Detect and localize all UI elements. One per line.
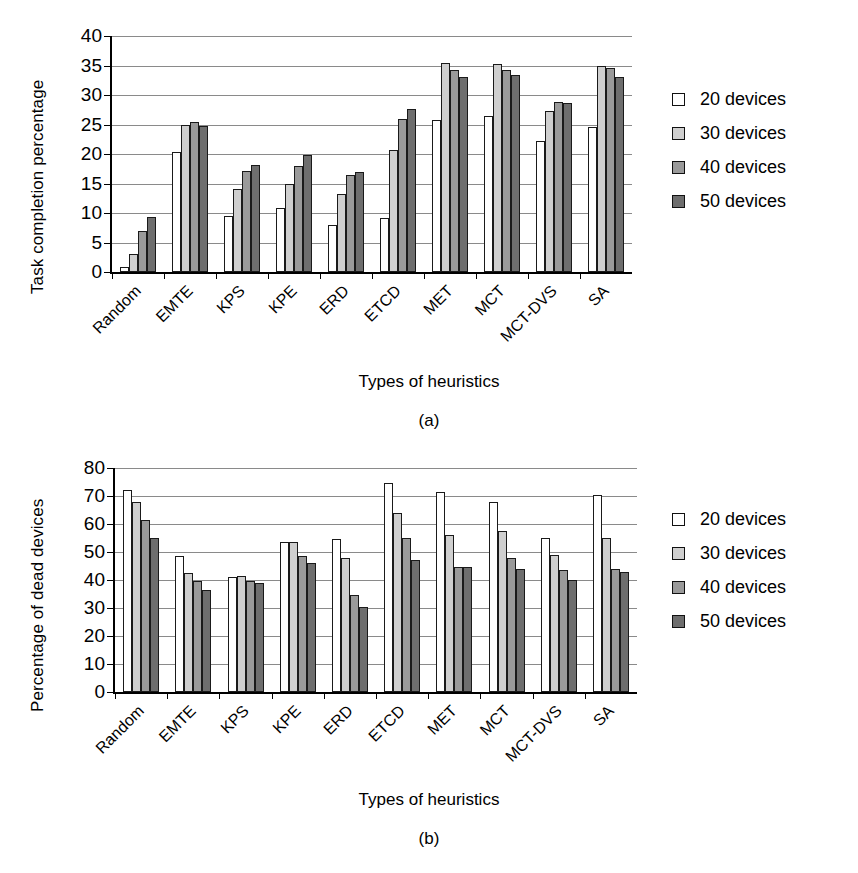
y-tick-label: 60 (65, 514, 105, 533)
y-tick-label: 25 (62, 115, 102, 134)
bar (502, 70, 511, 272)
bar (150, 538, 159, 692)
bar (255, 583, 264, 692)
bar (233, 189, 242, 272)
bar (450, 70, 459, 272)
bar (237, 576, 246, 692)
bar (123, 490, 132, 692)
bar (432, 120, 441, 272)
bar (484, 116, 493, 272)
bar (516, 569, 525, 692)
bar-group-emte (164, 36, 216, 272)
x-tick-label: MET (420, 282, 457, 319)
legend-item: 40 devices (672, 570, 786, 604)
bar (294, 166, 303, 272)
legend-item: 40 devices (672, 150, 786, 184)
bar-group-met (424, 36, 476, 272)
legend-item: 30 devices (672, 116, 786, 150)
bar (545, 111, 554, 272)
y-axis-tick (104, 184, 112, 185)
white-square-icon (672, 93, 685, 106)
bar (507, 558, 516, 692)
bar (242, 171, 251, 272)
x-tick-label: MET (424, 702, 461, 739)
bar (328, 225, 337, 272)
y-axis-tick (107, 552, 115, 553)
y-axis-tick (107, 636, 115, 637)
panel-b-x-tick-labels: RandomEMTEKPSKPEERDETCDMETMCTMCT-DVSSA (115, 692, 637, 782)
bar (350, 595, 359, 692)
x-tick-label: EMTE (156, 702, 200, 746)
bar (289, 542, 298, 692)
y-tick-label: 15 (62, 174, 102, 193)
legend-item: 50 devices (672, 184, 786, 218)
y-tick-label: 0 (62, 262, 102, 281)
dark-gray-square-icon (672, 195, 685, 208)
bar (559, 570, 568, 692)
y-axis-tick (107, 664, 115, 665)
bar-group-random (112, 36, 164, 272)
bar (120, 267, 129, 272)
bar (341, 558, 350, 692)
x-tick-label: EMTE (153, 282, 197, 326)
bar-group-kpe (268, 36, 320, 272)
y-axis-tick (104, 213, 112, 214)
panel-a-caption: (a) (0, 411, 858, 431)
bar (181, 125, 190, 273)
bar (498, 531, 507, 692)
panel-a-bar-groups (112, 36, 632, 272)
panel-b-caption: (b) (0, 829, 858, 849)
bar-group-mct (476, 36, 528, 272)
bar (398, 119, 407, 272)
legend-label: 20 devices (700, 89, 786, 110)
panel-b-plot-area: RandomEMTEKPSKPEERDETCDMETMCTMCT-DVSSA (113, 468, 637, 694)
panel-a-x-tick-labels: RandomEMTEKPSKPEERDETCDMETMCTMCT-DVSSA (112, 272, 632, 362)
bar-group-erd (320, 36, 372, 272)
x-tick-label: ETCD (365, 702, 409, 746)
bar (147, 217, 156, 272)
y-axis-tick (107, 692, 115, 693)
bar (568, 580, 577, 692)
bar (615, 77, 624, 272)
bar (554, 102, 563, 272)
bar-group-mct (480, 468, 532, 692)
y-tick-label: 20 (65, 626, 105, 645)
bar (359, 607, 368, 692)
legend-label: 30 devices (700, 123, 786, 144)
bar (303, 155, 312, 272)
bar-group-etcd (376, 468, 428, 692)
legend-label: 50 devices (700, 611, 786, 632)
bar (620, 572, 629, 692)
bar (193, 581, 202, 692)
bar (393, 513, 402, 692)
bar-group-kps (216, 36, 268, 272)
bar (411, 560, 420, 692)
bar (280, 542, 289, 692)
white-square-icon (672, 513, 685, 526)
bar (602, 538, 611, 692)
bar (445, 535, 454, 692)
bar (346, 175, 355, 272)
x-tick-label: ERD (320, 702, 357, 739)
bar (459, 77, 468, 272)
y-axis-tick (107, 580, 115, 581)
bar (129, 254, 138, 272)
y-tick-label: 40 (62, 26, 102, 45)
bar (563, 103, 572, 272)
bar-group-mct-dvs (528, 36, 580, 272)
bar (132, 502, 141, 692)
y-axis-tick (104, 66, 112, 67)
bar (536, 141, 545, 272)
bar (493, 64, 502, 272)
medium-gray-square-icon (672, 581, 685, 594)
y-axis-tick (107, 608, 115, 609)
y-axis-tick (107, 524, 115, 525)
y-tick-label: 70 (65, 486, 105, 505)
panel-b-x-axis-title: Types of heuristics (0, 790, 858, 810)
y-tick-label: 30 (62, 85, 102, 104)
bar (285, 184, 294, 273)
bar (276, 208, 285, 272)
legend-item: 20 devices (672, 502, 786, 536)
legend-label: 40 devices (700, 157, 786, 178)
y-tick-label: 0 (65, 682, 105, 701)
